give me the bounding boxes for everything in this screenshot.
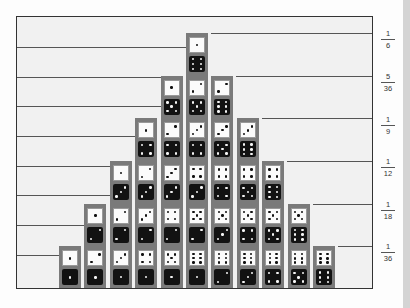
pip xyxy=(294,218,296,220)
pip xyxy=(145,129,147,131)
pip xyxy=(268,186,270,188)
pip xyxy=(192,168,194,170)
pip xyxy=(116,261,118,263)
white-die-4 xyxy=(164,208,180,224)
pip xyxy=(141,195,143,197)
dice-pair-5-4 xyxy=(240,206,256,249)
white-die-5 xyxy=(291,208,307,224)
white-die-6 xyxy=(240,250,256,266)
pip xyxy=(94,276,96,278)
white-die-1 xyxy=(113,165,129,181)
pip xyxy=(217,90,219,92)
pip xyxy=(225,152,227,154)
white-die-1 xyxy=(138,122,154,138)
pip xyxy=(192,133,194,135)
pip xyxy=(149,261,151,263)
white-die-6 xyxy=(189,250,205,266)
white-die-4 xyxy=(189,165,205,181)
pip xyxy=(200,152,202,154)
pip xyxy=(218,175,220,177)
pip xyxy=(326,253,328,255)
pip xyxy=(225,187,227,189)
pip xyxy=(272,233,274,235)
pip xyxy=(268,196,270,198)
pip xyxy=(175,152,177,154)
pip xyxy=(94,214,96,216)
y-tick-label-5-36: 536 xyxy=(376,72,400,93)
pip xyxy=(326,257,328,259)
denominator: 12 xyxy=(376,169,400,178)
white-die-2 xyxy=(138,165,154,181)
pip xyxy=(243,211,245,213)
pip xyxy=(199,175,201,177)
pip xyxy=(221,233,223,235)
pip xyxy=(226,229,228,231)
white-die-4 xyxy=(265,165,281,181)
dice-pair-5-2 xyxy=(189,206,205,249)
pip xyxy=(149,152,151,154)
pip xyxy=(242,195,244,197)
bar-sum-5 xyxy=(135,118,157,289)
pip xyxy=(242,229,244,231)
pip xyxy=(217,152,219,154)
pip xyxy=(268,238,270,240)
pip xyxy=(243,143,245,145)
y-tick-label-1-18: 118 xyxy=(376,200,400,221)
pip xyxy=(301,257,303,259)
pip xyxy=(90,261,92,263)
pip xyxy=(251,272,253,274)
grid-line-right xyxy=(313,204,373,205)
black-die-4 xyxy=(164,141,180,157)
black-die-3 xyxy=(113,184,129,200)
pip xyxy=(167,211,169,213)
black-die-4 xyxy=(240,227,256,243)
bar-sum-3 xyxy=(84,204,106,289)
pip xyxy=(199,168,201,170)
pip xyxy=(327,271,329,273)
pip xyxy=(251,187,253,189)
pip xyxy=(192,211,194,213)
pip xyxy=(218,261,220,263)
pip xyxy=(250,218,252,220)
dice-pair-2-4 xyxy=(164,120,180,163)
pip xyxy=(170,86,172,88)
dice-pair-2-2 xyxy=(113,206,129,249)
pip xyxy=(192,101,194,103)
pip xyxy=(218,257,220,259)
grid-line-left xyxy=(17,106,161,107)
pip xyxy=(200,125,202,127)
grid-line-right xyxy=(287,161,373,162)
pip xyxy=(302,280,304,282)
pip xyxy=(251,229,253,231)
pip xyxy=(200,110,202,112)
pip xyxy=(170,105,172,107)
white-die-3 xyxy=(113,250,129,266)
pip xyxy=(175,229,177,231)
pip xyxy=(225,211,227,213)
numerator: 1 xyxy=(376,200,400,209)
grid-line-left xyxy=(17,166,110,167)
white-die-2 xyxy=(189,80,205,96)
pip xyxy=(217,187,219,189)
grid-line-left xyxy=(17,255,59,256)
white-die-2 xyxy=(113,208,129,224)
black-die-5 xyxy=(189,99,205,115)
black-die-6 xyxy=(214,99,230,115)
dice-pair-6-6 xyxy=(316,248,332,289)
black-die-5 xyxy=(265,227,281,243)
dice-pair-5-5 xyxy=(265,206,281,249)
pip xyxy=(242,187,244,189)
numerator: 1 xyxy=(376,242,400,251)
bar-sum-9 xyxy=(237,118,259,289)
pip xyxy=(294,229,296,231)
black-die-1 xyxy=(164,269,180,285)
grid-line-left xyxy=(17,136,135,137)
bar-sum-12 xyxy=(313,246,335,289)
dice-pair-5-3 xyxy=(214,206,230,249)
pip xyxy=(294,253,296,255)
black-die-2 xyxy=(189,227,205,243)
pip xyxy=(225,175,227,177)
black-die-2 xyxy=(164,227,180,243)
pip xyxy=(124,186,126,188)
pip xyxy=(116,218,118,220)
